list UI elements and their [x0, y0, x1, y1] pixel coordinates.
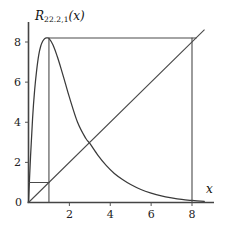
series-R_{22.2,1}(x)	[29, 38, 205, 203]
origin-tick-label: 0	[15, 197, 22, 208]
curve-label-subscript: 22.2,1	[44, 15, 68, 24]
x-tick-label: 4	[107, 209, 114, 220]
chart-figure: R22.2,1(x) x 0 2468 2468	[0, 0, 229, 236]
y-tick-label: 4	[14, 117, 21, 128]
x-tick-label: 6	[148, 209, 155, 220]
curve-label-base: R	[35, 9, 44, 23]
y-tick-label: 6	[14, 77, 21, 88]
series-identity-line	[29, 30, 205, 203]
y-tick-label: 2	[14, 157, 21, 168]
x-tick-label: 2	[66, 209, 73, 220]
x-tick-label: 8	[189, 209, 196, 220]
plot-canvas	[0, 0, 229, 236]
curve-equation-label: R22.2,1(x)	[35, 9, 85, 24]
data-series-group	[29, 30, 205, 203]
y-tick-label: 8	[14, 37, 21, 48]
curve-label-argument: (x)	[69, 9, 85, 23]
x-axis-title: x	[206, 182, 213, 196]
